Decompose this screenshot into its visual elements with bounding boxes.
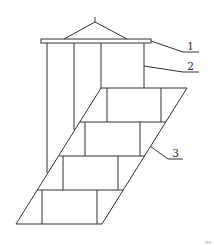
diagram-canvas: 1 2 3 ¤¤	[0, 0, 214, 245]
label-3: 3	[172, 147, 179, 160]
hanger-triangle	[64, 17, 127, 39]
leader-2: 2	[144, 60, 199, 73]
leader-3: 3	[150, 146, 183, 160]
leader-1: 1	[151, 40, 199, 53]
label-2: 2	[187, 60, 194, 73]
stepped-base	[16, 88, 187, 224]
label-1: 1	[187, 40, 194, 53]
column-body	[47, 43, 144, 173]
cap-plate	[41, 39, 151, 43]
corner-mark: ¤¤	[205, 239, 211, 245]
